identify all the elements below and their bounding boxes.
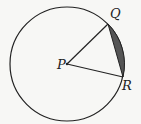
circle-diagram: P Q R <box>0 0 141 124</box>
label-q: Q <box>110 6 121 21</box>
diagram-canvas: P Q R <box>0 0 141 124</box>
radius-pr <box>67 64 123 77</box>
radius-pq <box>67 24 108 64</box>
label-p: P <box>56 57 66 72</box>
label-r: R <box>121 78 132 93</box>
shaded-segment <box>108 24 124 77</box>
center-point <box>66 63 68 65</box>
